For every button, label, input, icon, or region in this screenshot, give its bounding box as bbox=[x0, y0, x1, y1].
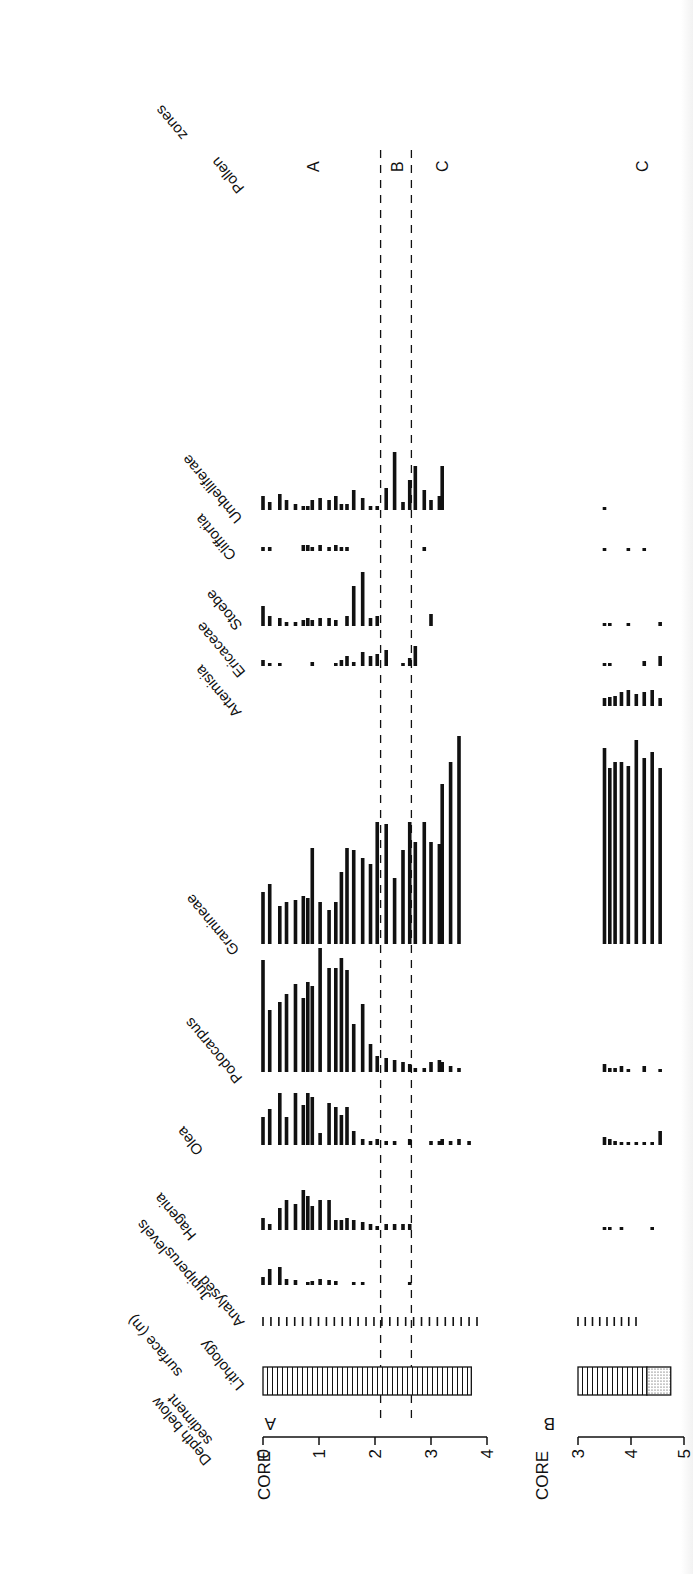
label-umbelliferae: Umbelliferae bbox=[178, 452, 245, 527]
core-b-label: CORE bbox=[533, 1451, 552, 1500]
core-b-umbelliferae-bars bbox=[603, 507, 607, 510]
core-a-stoebe-bars bbox=[261, 572, 433, 626]
label-olea: Olea bbox=[172, 1123, 206, 1159]
core-a-juniperus-bars bbox=[261, 1267, 411, 1285]
taxon-labels: Juniperus Hagenia Olea Podocarpus Gramin… bbox=[124, 102, 249, 1469]
lithology-column bbox=[263, 1367, 671, 1395]
depth-tick: 1 bbox=[310, 1449, 329, 1458]
taxon-bars bbox=[261, 452, 662, 1285]
core-b-ericaceae-bars bbox=[603, 656, 662, 666]
core-b-cliffortia-bars bbox=[603, 548, 646, 551]
core-a-label: CORE bbox=[255, 1451, 274, 1500]
analysed-levels-column bbox=[262, 1317, 637, 1326]
label-gramineae: Gramineae bbox=[182, 891, 243, 959]
core-b-olea-bars bbox=[603, 1131, 662, 1145]
core-b-stoebe-bars bbox=[603, 622, 662, 626]
core-a-ericaceae-bars bbox=[261, 646, 417, 666]
label-pollen: Pollen bbox=[207, 154, 247, 197]
zone-label: C bbox=[434, 160, 451, 172]
depth-tick: 2 bbox=[366, 1449, 385, 1458]
core-b-hagenia-bars bbox=[603, 1227, 654, 1230]
depth-tick: 4 bbox=[622, 1449, 641, 1458]
depth-tick: 4 bbox=[478, 1449, 497, 1458]
core-b-letter: B bbox=[544, 1414, 555, 1433]
depth-axes: 01234345 bbox=[254, 1437, 693, 1458]
core-labels: CORE A CORE B bbox=[255, 1414, 555, 1500]
zone-label: B bbox=[389, 161, 406, 172]
zone-label: A bbox=[305, 161, 322, 172]
core-b-gramineae-bars bbox=[603, 740, 662, 944]
label-zones: zones bbox=[152, 102, 191, 144]
zone-label: C bbox=[634, 160, 651, 172]
core-b-podocarpus-bars bbox=[603, 1064, 662, 1072]
label-depth-3: surface (m) bbox=[124, 1312, 186, 1381]
pollen-diagram: 01234345 Juniperus Hagenia Olea Podocarp… bbox=[0, 0, 693, 1574]
core-a-gramineae-bars bbox=[261, 736, 461, 944]
core-a-hagenia-bars bbox=[261, 1190, 411, 1230]
depth-tick: 5 bbox=[675, 1449, 693, 1458]
core-a-cliffortia-bars bbox=[261, 545, 426, 551]
depth-tick: 3 bbox=[569, 1449, 588, 1458]
core-a-podocarpus-bars bbox=[261, 948, 461, 1072]
label-lithology: Lithology bbox=[195, 1337, 247, 1394]
core-a-umbelliferae-bars bbox=[261, 452, 444, 510]
label-podocarpus: Podocarpus bbox=[181, 1015, 245, 1087]
label-levels: levels bbox=[133, 1217, 171, 1257]
depth-tick: 3 bbox=[422, 1449, 441, 1458]
core-b-artemisia-bars bbox=[603, 690, 662, 706]
core-a-letter: A bbox=[264, 1414, 276, 1433]
pollen-zone-labels: ABCC bbox=[305, 160, 650, 172]
core-a-olea-bars bbox=[261, 1093, 471, 1145]
